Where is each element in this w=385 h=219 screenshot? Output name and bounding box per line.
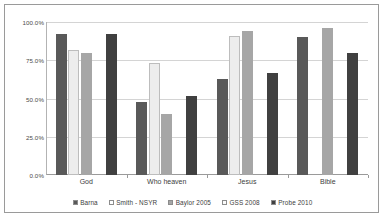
legend-label: Probe 2010 [278,199,312,206]
x-tick-label-jesus: Jesus [238,178,256,185]
y-tick-label: 25.0% [8,133,44,140]
legend-item-smith-nsyr[interactable]: Smith - NSYR [109,199,157,206]
plot-region: 0.0%25.0%50.0%75.0%100.0% GodWho heavenJ… [5,5,380,186]
bar [322,28,333,175]
x-axis-tick [368,175,369,178]
chart-frame: 0.0%25.0%50.0%75.0%100.0% GodWho heavenJ… [4,4,379,213]
legend-swatch-icon [271,200,276,205]
bar-group [207,22,288,175]
bar [136,102,147,175]
legend-item-probe-2010[interactable]: Probe 2010 [271,199,313,206]
legend-swatch-icon [109,200,114,205]
bar-group [288,22,369,175]
legend-swatch-icon [168,200,173,205]
x-tick-label-who-heaven: Who heaven [147,178,186,185]
y-tick-label: 75.0% [8,57,44,64]
bar [186,96,197,175]
bar [297,37,308,175]
bar [106,34,117,175]
legend-label: Baylor 2005 [176,199,211,206]
y-tick-label: 0.0% [8,172,44,179]
bar [242,31,253,175]
x-tick-label-bible: Bible [320,178,336,185]
bar [81,53,92,175]
legend-label: Smith - NSYR [116,199,157,206]
x-tick-label-god: God [80,178,93,185]
bar [229,36,240,175]
bar [217,79,228,175]
bars-layer [46,22,368,175]
legend-item-barna[interactable]: Barna [73,199,98,206]
bar [68,50,79,175]
bar [161,114,172,175]
chart-legend: BarnaSmith - NSYRBaylor 2005GSS 2008Prob… [5,195,380,209]
bar [267,73,278,175]
bar [56,34,67,175]
y-tick-label: 50.0% [8,95,44,102]
y-axis: 0.0%25.0%50.0%75.0%100.0% [5,22,44,175]
legend-item-baylor-2005[interactable]: Baylor 2005 [168,199,211,206]
legend-swatch-icon [73,200,78,205]
bar-group [46,22,127,175]
y-tick-label: 100.0% [8,19,44,26]
bar [149,63,160,175]
x-axis: GodWho heavenJesusBible [46,178,368,192]
legend-item-gss-2008[interactable]: GSS 2008 [222,199,260,206]
legend-label: Barna [80,199,98,206]
bar [347,53,358,175]
legend-label: GSS 2008 [229,199,259,206]
legend-swatch-icon [222,200,227,205]
bar-group [127,22,208,175]
